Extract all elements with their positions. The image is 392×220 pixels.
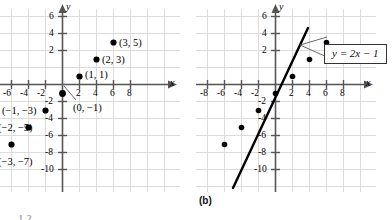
y-tick-label-b-4: -4 (258, 114, 266, 124)
y-tick-label-b-7: -10 (254, 165, 267, 175)
function-line-b (233, 28, 308, 188)
x-axis-label-a: x (170, 78, 174, 88)
point-label-2-3: (2, 3) (102, 55, 125, 66)
point-label-minus2-minus5: (−2, −5) (0, 123, 33, 134)
x-tick-label-a-2: -2 (37, 89, 45, 99)
y-tick-label-a-1: 4 (49, 29, 54, 39)
point-label-minus1-minus3: (−1, −3) (2, 106, 37, 117)
x-tick-label-b-6: 6 (323, 89, 328, 99)
y-tick-label-a-7: -10 (41, 165, 54, 175)
point-label-minus3-minus7: (−3, −7) (0, 157, 33, 168)
equation-callout-box: y = 2x − 1 (324, 44, 387, 64)
page-bottom-partial-text: 1 2 (18, 213, 32, 220)
y-tick-label-b-3: -2 (258, 97, 266, 107)
y-tick-label-a-6: -8 (45, 148, 53, 158)
y-tick-label-b-0: 6 (262, 12, 267, 22)
figure-caption-b: (b) (199, 196, 212, 206)
x-tick-label-b-2: -4 (234, 89, 242, 99)
x-tick-label-a-1: -4 (20, 89, 28, 99)
y-axis-label-b: y (279, 2, 283, 12)
panel-b-graph (196, 0, 392, 200)
x-tick-label-b-4: 2 (289, 89, 294, 99)
x-tick-label-b-1: -6 (217, 89, 225, 99)
point-label-1-1: (1, 1) (85, 70, 108, 81)
y-axis-label-a: y (66, 2, 70, 12)
x-tick-label-b-7: 8 (340, 89, 345, 99)
x-axis-label-b: x (366, 78, 370, 88)
x-tick-label-a-6: 8 (127, 89, 132, 99)
point-label-3-5: (3, 5) (119, 38, 142, 49)
y-tick-label-b-6: -8 (258, 148, 266, 158)
point-label-0-minus1: (0, −1) (73, 103, 102, 114)
x-tick-label-a-4: 4 (93, 89, 98, 99)
y-tick-label-a-0: 6 (49, 12, 54, 22)
y-tick-label-b-5: -6 (258, 131, 266, 141)
y-tick-label-a-4: -4 (45, 114, 53, 124)
y-axis-a (59, 4, 67, 192)
x-tick-label-b-5: 4 (306, 89, 311, 99)
y-tick-label-a-5: -6 (45, 131, 53, 141)
x-tick-label-a-3: 2 (76, 89, 81, 99)
y-tick-label-a-3: -2 (45, 97, 53, 107)
figure-panel-a: x y -6 -4 -2 2 4 6 8 6 4 2 -2 -4 -6 -8 -… (0, 0, 196, 220)
y-tick-label-a-2: 2 (49, 46, 54, 56)
grid-lines-b (196, 9, 376, 192)
callout-leader-lines-b (300, 37, 327, 57)
x-tick-label-a-0: -6 (3, 89, 11, 99)
figure-panel-b: x y -8 -6 -4 -2 2 4 6 8 6 4 2 -2 -4 -6 -… (196, 0, 392, 220)
x-tick-label-a-5: 6 (110, 89, 115, 99)
y-tick-label-b-2: 2 (262, 46, 267, 56)
panel-a-graph (0, 0, 196, 200)
y-tick-label-b-1: 4 (262, 29, 267, 39)
x-tick-label-b-0: -8 (200, 89, 208, 99)
